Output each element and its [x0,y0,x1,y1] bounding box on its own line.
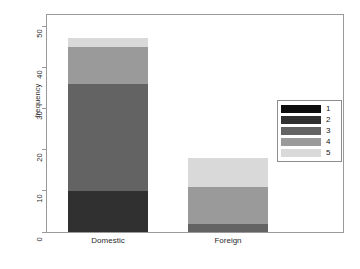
bar-domestic [68,38,148,232]
y-tick-label: 0 [35,232,44,248]
y-tick-label: 10 [35,190,44,206]
legend-item-3: 3 [281,126,338,136]
bar-segment-2 [68,191,148,232]
x-axis-label-domestic: Domestic [68,236,148,245]
bar-segment-4 [188,187,268,224]
bar-segment-5 [188,158,268,187]
legend-swatch-2 [281,116,321,124]
legend-item-4: 4 [281,137,338,147]
legend-label: 2 [326,116,330,124]
bar-segment-4 [68,47,148,84]
y-tick-label: 40 [35,67,44,83]
bar-foreign [188,158,268,232]
legend-label: 1 [326,105,330,113]
legend-label: 4 [326,138,330,146]
chart-legend: 12345 [277,100,342,162]
bar-segment-3 [188,224,268,232]
legend-label: 3 [326,127,330,135]
legend-swatch-5 [281,149,321,157]
bar-segment-3 [68,84,148,191]
legend-swatch-4 [281,138,321,146]
legend-item-5: 5 [281,148,338,158]
chart-figure: frequency 01020304050 DomesticForeign 12… [0,0,360,269]
legend-label: 5 [326,149,330,157]
x-axis-label-foreign: Foreign [188,236,268,245]
legend-swatch-3 [281,127,321,135]
y-tick-label: 20 [35,149,44,165]
y-tick-label: 30 [35,108,44,124]
bar-segment-5 [68,38,148,46]
legend-item-1: 1 [281,104,338,114]
legend-item-2: 2 [281,115,338,125]
legend-swatch-1 [281,105,321,113]
y-tick-label: 50 [35,26,44,42]
